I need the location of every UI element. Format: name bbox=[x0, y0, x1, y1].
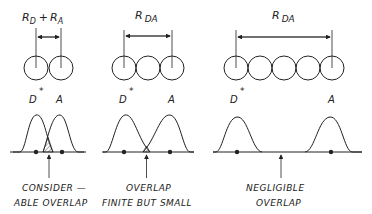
donor-dot bbox=[235, 150, 239, 154]
panel-negligible-overlap: RDA D * A NEGLIGIBLE OVERLAP bbox=[213, 9, 362, 208]
caption-line-1: NEGLIGIBLE bbox=[246, 183, 305, 193]
donor-emission-curve bbox=[103, 115, 150, 152]
spacer-circle bbox=[136, 56, 160, 80]
donor-label: D bbox=[29, 94, 37, 105]
distance-label-rda: RDA bbox=[272, 9, 295, 24]
acceptor-label: A bbox=[55, 94, 63, 105]
spacer-circle bbox=[296, 56, 320, 80]
donor-star: * bbox=[129, 86, 134, 96]
acceptor-label: A bbox=[327, 94, 335, 105]
acceptor-label: A bbox=[167, 94, 175, 105]
donor-star: * bbox=[240, 86, 245, 96]
spacer-circle bbox=[272, 56, 296, 80]
distance-label-rda: RDA bbox=[135, 9, 158, 24]
caption-line-2: ABLE OVERLAP bbox=[13, 198, 88, 208]
donor-dot bbox=[122, 150, 126, 154]
acceptor-dot bbox=[329, 150, 333, 154]
caption-line-2: FINITE BUT SMALL bbox=[102, 198, 192, 208]
donor-star: * bbox=[39, 86, 44, 96]
donor-emission-curve bbox=[213, 117, 262, 152]
acceptor-absorption-curve bbox=[143, 115, 194, 152]
caption-line-1: OVERLAP bbox=[126, 183, 171, 193]
donor-dot bbox=[34, 150, 38, 154]
donor-label: D bbox=[230, 94, 238, 105]
caption-line-2: OVERLAP bbox=[256, 198, 301, 208]
acceptor-dot bbox=[168, 150, 172, 154]
panel-finite-overlap: RDA D * A OVERLAP FINITE BUT SMALL bbox=[102, 9, 194, 208]
caption-line-1: CONSIDER — bbox=[22, 183, 86, 193]
spacer-circle bbox=[248, 56, 272, 80]
distance-label-rd-plus-ra: RD+RA bbox=[22, 11, 63, 26]
donor-label: D bbox=[119, 94, 127, 105]
panel-considerable-overlap: RD+RA D * A CONSIDER — ABLE OVERLAP bbox=[10, 11, 88, 208]
acceptor-absorption-curve bbox=[305, 117, 362, 152]
acceptor-dot bbox=[60, 150, 64, 154]
overlap-diagram: RD+RA D * A CONSIDER — ABLE OVERLAP RDA bbox=[0, 0, 372, 214]
